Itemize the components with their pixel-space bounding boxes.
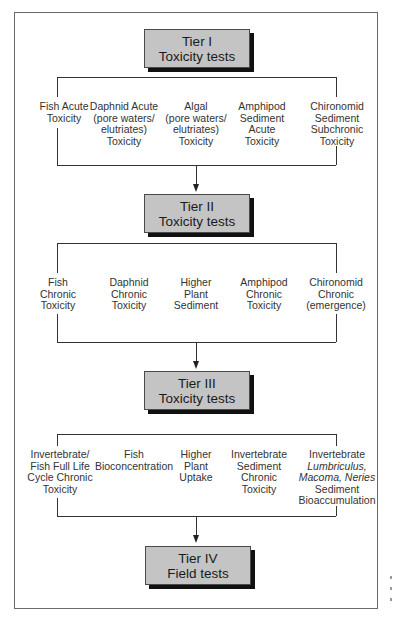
test-line-italic: Macoma, Neries (298, 472, 375, 484)
tier-3-bracket-left-bottom (57, 498, 58, 516)
test-line: Toxicity (40, 300, 76, 312)
tier-3-test-fish-bioconcentration: Fish Bioconcentration (95, 449, 173, 472)
tier-3-bracket-right-top (336, 434, 337, 446)
test-line: Higher (179, 449, 212, 461)
tier-1-bracket-right-top (336, 77, 337, 97)
test-line: Toxicity (109, 300, 148, 312)
tier-2-bracket-left-bottom (57, 314, 58, 342)
test-line: Toxicity (231, 484, 287, 496)
tier-4-box: Tier IV Field tests (145, 546, 251, 585)
tier-2-test-fish-chronic: Fish Chronic Toxicity (40, 277, 76, 312)
test-line: Fish (40, 277, 76, 289)
edge-mark (390, 587, 392, 590)
arrow-down-icon (193, 184, 199, 192)
test-line: Bioconcentration (95, 461, 173, 473)
test-line: Algal (165, 101, 226, 113)
tier-1-bracket-left-bottom (57, 128, 58, 165)
tier-2-subtitle: Toxicity tests (159, 214, 236, 229)
tier-1-bracket-right-bottom (336, 146, 337, 165)
tier-3-bracket-left-top (57, 434, 58, 446)
test-line: Amphipod (240, 277, 287, 289)
test-line: Daphnid (109, 277, 148, 289)
tier-2-bracket-right-bottom (336, 314, 337, 342)
test-line: Amphipod (238, 101, 285, 113)
tier-3-bracket-top (57, 434, 336, 435)
edge-mark (390, 576, 392, 579)
tier-1-box: Tier I Toxicity tests (144, 29, 250, 68)
tier-1-test-daphnid-acute: Daphnid Acute (pore waters/ elutriates) … (90, 101, 158, 147)
tier-2-bracket-top (57, 243, 336, 244)
test-line: Fish Acute (39, 101, 88, 113)
test-line: Cycle Chronic (27, 472, 92, 484)
test-line: Toxicity (90, 136, 158, 148)
tier-2-bracket-right-top (336, 243, 337, 273)
test-line: Bioaccumulation (298, 495, 375, 507)
tier-3-title: Tier III (178, 376, 216, 391)
test-line: elutriates) (165, 124, 226, 136)
tier-2-title: Tier II (180, 199, 214, 214)
tier-2-test-chironomid-chronic: Chironomid Chronic (emergence) (306, 277, 366, 312)
tier-3-test-higher-plant-uptake: Higher Plant Uptake (179, 449, 212, 484)
test-line: Toxicity (39, 113, 88, 125)
tier-3-test-sediment-bioaccumulation: Invertebrate Lumbriculus, Macoma, Neries… (298, 449, 375, 507)
test-line: Higher (174, 277, 218, 289)
test-line: Chronic (231, 472, 287, 484)
tier-2-box: Tier II Toxicity tests (144, 194, 250, 233)
test-line: Acute (238, 124, 285, 136)
test-line: Sediment (174, 300, 218, 312)
tier-1-subtitle: Toxicity tests (159, 49, 236, 64)
tier-1-bracket-left-top (57, 77, 58, 97)
test-line: Invertebrate (298, 449, 375, 461)
test-line: Toxicity (240, 300, 287, 312)
test-line: Invertebrate (231, 449, 287, 461)
test-line: Subchronic (310, 124, 364, 136)
tier-1-test-fish-acute: Fish Acute Toxicity (39, 101, 88, 124)
tier-3-test-full-life-cycle: Invertebrate/ Fish Full Life Cycle Chron… (27, 449, 92, 495)
arrow-down-icon (193, 535, 199, 543)
edge-mark (390, 598, 392, 601)
test-line: Toxicity (238, 136, 285, 148)
test-line: Fish (95, 449, 173, 461)
test-line: Invertebrate/ (27, 449, 92, 461)
test-line: Chironomid (310, 101, 364, 113)
test-line: elutriates) (90, 124, 158, 136)
tier-4-subtitle: Field tests (167, 566, 229, 581)
tier-2-test-amphipod-chronic: Amphipod Chronic Toxicity (240, 277, 287, 312)
tier-3-box: Tier III Toxicity tests (144, 371, 250, 410)
tier-1-test-amphipod-acute: Amphipod Sediment Acute Toxicity (238, 101, 285, 147)
test-line: Chironomid (306, 277, 366, 289)
tier-2-test-daphnid-chronic: Daphnid Chronic Toxicity (109, 277, 148, 312)
tier-3-subtitle: Toxicity tests (159, 391, 236, 406)
tier-3-bracket-right-bottom (336, 506, 337, 516)
test-line: Toxicity (27, 484, 92, 496)
tier-3-test-invertebrate-sediment-chronic: Invertebrate Sediment Chronic Toxicity (231, 449, 287, 495)
test-line: Toxicity (310, 136, 364, 148)
tier-1-title: Tier I (182, 34, 212, 49)
tier-1-bracket-top (57, 77, 336, 78)
tier-2-bracket-left-top (57, 243, 58, 273)
tier-4-title: Tier IV (178, 551, 217, 566)
arrow-down-icon (193, 361, 199, 369)
tier-1-test-algal: Algal (pore waters/ elutriates) Toxicity (165, 101, 226, 147)
test-line: Toxicity (165, 136, 226, 148)
tier-1-test-chironomid-subchronic: Chironomid Sediment Subchronic Toxicity (310, 101, 364, 147)
test-line: Daphnid Acute (90, 101, 158, 113)
tier-2-test-higher-plant-sediment: Higher Plant Sediment (174, 277, 218, 312)
test-line: (emergence) (306, 300, 366, 312)
test-line: Uptake (179, 472, 212, 484)
